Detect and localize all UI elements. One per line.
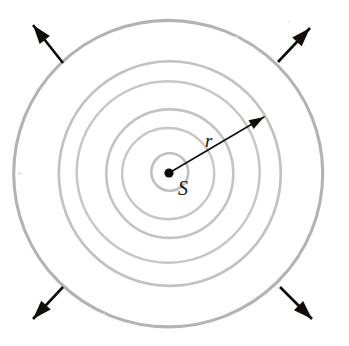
radius-vector-arrowhead: [249, 117, 264, 129]
source-point-group: [164, 168, 173, 177]
source-point-dot: [164, 168, 173, 177]
source-label: S: [178, 177, 188, 199]
radius-label: r: [205, 130, 213, 151]
radius-vector-line: [169, 117, 264, 173]
wave-diagram-canvas: r S: [0, 0, 349, 346]
wave-diagram-figure: r S: [0, 0, 349, 346]
radius-vector-group: [169, 117, 264, 173]
